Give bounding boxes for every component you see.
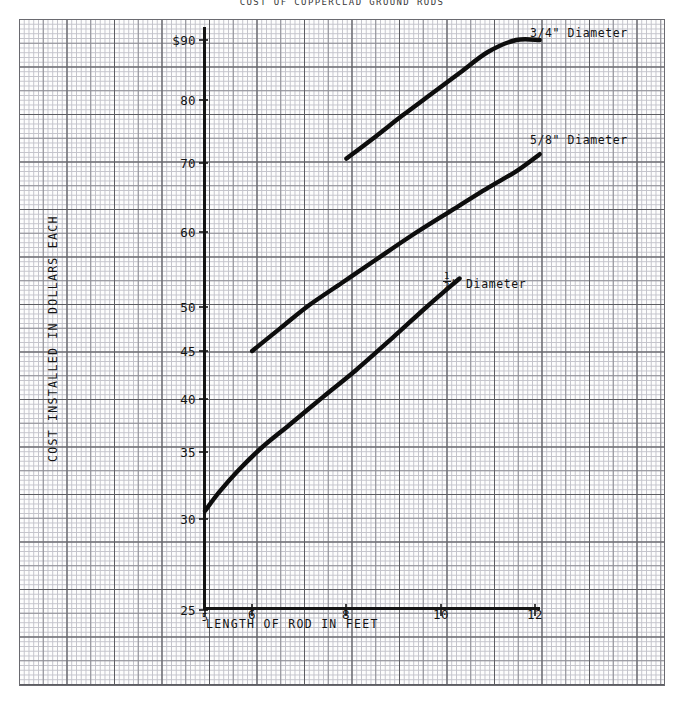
curve-half-inch [205,279,460,511]
x-tick-label-10: 10 [428,607,454,622]
x-tick-label-12: 12 [522,607,548,622]
y-tick-label-35: 35 [148,445,196,460]
y-tick-label-40: 40 [148,392,196,407]
y-tick-label-45: 45 [148,344,196,359]
y-tick-label-70: 70 [148,156,196,171]
chart-page: COST OF COPPERCLAD GROUND RODS [0,0,684,705]
y-axis-title: COST INSTALLED IN DOLLARS EACH [46,242,60,462]
series-label-five-eighths: 5/8" Diameter [530,133,628,147]
curve-three-quarters-inch [346,39,539,158]
series-label-three-quarters: 3/4" Diameter [530,26,628,40]
fraction-one-half: 12 [443,272,451,291]
y-tick-label-30: 30 [148,512,196,527]
y-tick-label-60: 60 [148,225,196,240]
y-tick-label-25: 25 [148,603,196,618]
plot-area [0,0,684,705]
x-axis-title: LENGTH OF ROD IN FEET [206,617,379,631]
y-tick-label-80: 80 [148,93,196,108]
y-tick-label-50: 50 [148,300,196,315]
series-label-half: 12" Diameter [443,272,526,291]
y-tick-label-90: $90 [148,33,196,48]
curve-five-eighths-inch [252,154,540,351]
